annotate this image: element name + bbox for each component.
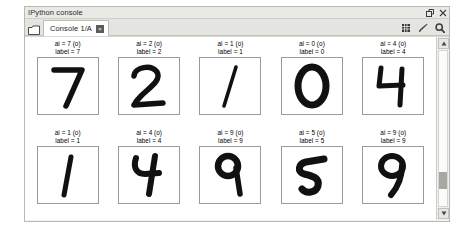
window-title: IPython console bbox=[28, 7, 83, 19]
digit-cell[interactable]: ai = 1 (o) label = 1 bbox=[29, 129, 107, 204]
options-icon[interactable] bbox=[400, 22, 411, 33]
digit-cell[interactable]: ai = 4 (o) label = 4 bbox=[354, 40, 432, 115]
scrollbar-thumb[interactable] bbox=[439, 172, 447, 189]
digit-image-0 bbox=[281, 57, 343, 115]
tab-close-icon[interactable]: × bbox=[96, 25, 104, 33]
screen: IPython console bbox=[0, 0, 462, 236]
scrollbar-track[interactable] bbox=[438, 50, 448, 207]
cell-label-line: label = 9 bbox=[218, 137, 243, 145]
cell-ai-line: ai = 5 (o) bbox=[299, 129, 325, 137]
cell-ai-line: ai = 1 (o) bbox=[55, 129, 81, 137]
tab-label: Console 1/A bbox=[50, 24, 92, 33]
digit-cell[interactable]: ai = 9 (o) label = 9 bbox=[354, 129, 432, 204]
cell-label-line: label = 1 bbox=[55, 137, 80, 145]
cell-ai-line: ai = 9 (o) bbox=[218, 129, 244, 137]
digit-image-2 bbox=[118, 57, 180, 115]
toolbar-icon-group bbox=[400, 22, 445, 33]
digit-cell[interactable]: ai = 5 (o) label = 5 bbox=[273, 129, 351, 204]
cell-label-line: label = 9 bbox=[381, 137, 406, 145]
cell-ai-line: ai = 0 (o) bbox=[299, 40, 325, 48]
cell-ai-line: ai = 2 (o) bbox=[136, 40, 162, 48]
figure-row-1: ai = 7 (o) label = 7 ai = 2 (o) label = … bbox=[27, 40, 434, 129]
cell-label-line: label = 2 bbox=[137, 48, 162, 56]
digit-image-1b bbox=[37, 146, 99, 204]
digit-cell[interactable]: ai = 9 (o) label = 9 bbox=[191, 129, 269, 204]
cell-ai-line: ai = 4 (o) bbox=[136, 129, 162, 137]
digit-image-1 bbox=[199, 57, 261, 115]
cell-ai-line: ai = 9 (o) bbox=[380, 129, 406, 137]
vertical-scrollbar[interactable] bbox=[436, 37, 449, 220]
close-button[interactable] bbox=[438, 8, 447, 17]
digit-image-7 bbox=[37, 57, 99, 115]
tab-console-1a[interactable]: Console 1/A × bbox=[43, 20, 109, 36]
magnifier-icon[interactable] bbox=[434, 22, 445, 33]
digit-cell[interactable]: ai = 2 (o) label = 2 bbox=[110, 40, 188, 115]
cell-label-line: label = 0 bbox=[299, 48, 324, 56]
cell-ai-line: ai = 7 (o) bbox=[55, 40, 81, 48]
console-tabstrip: Console 1/A × bbox=[25, 19, 449, 36]
digit-cell[interactable]: ai = 1 (o) label = 1 bbox=[191, 40, 269, 115]
digit-cell[interactable]: ai = 4 (o) label = 4 bbox=[110, 129, 188, 204]
scroll-up-arrow-icon[interactable] bbox=[438, 38, 449, 49]
window-titlebar: IPython console bbox=[25, 7, 449, 19]
folder-browse-icon[interactable] bbox=[28, 22, 40, 33]
ipython-console-window: IPython console bbox=[24, 6, 450, 222]
digit-cell[interactable]: ai = 7 (o) label = 7 bbox=[29, 40, 107, 115]
cell-ai-line: ai = 4 (o) bbox=[380, 40, 406, 48]
cell-label-line: label = 7 bbox=[55, 48, 80, 56]
cell-label-line: label = 4 bbox=[137, 137, 162, 145]
scroll-down-arrow-icon[interactable] bbox=[438, 208, 449, 219]
console-output-area: ai = 7 (o) label = 7 ai = 2 (o) label = … bbox=[25, 36, 449, 220]
mnist-prediction-figure: ai = 7 (o) label = 7 ai = 2 (o) label = … bbox=[25, 37, 436, 220]
digit-image-4 bbox=[362, 57, 424, 115]
digit-cell[interactable]: ai = 0 (o) label = 0 bbox=[273, 40, 351, 115]
cell-ai-line: ai = 1 (o) bbox=[218, 40, 244, 48]
undock-button[interactable] bbox=[425, 8, 434, 17]
brush-icon[interactable] bbox=[417, 22, 428, 33]
cell-label-line: label = 5 bbox=[299, 137, 324, 145]
digit-image-9 bbox=[199, 146, 261, 204]
cell-label-line: label = 1 bbox=[218, 48, 243, 56]
digit-image-4b bbox=[118, 146, 180, 204]
digit-image-5 bbox=[281, 146, 343, 204]
cell-label-line: label = 4 bbox=[381, 48, 406, 56]
figure-row-2: ai = 1 (o) label = 1 ai = 4 (o) label = … bbox=[27, 129, 434, 218]
titlebar-button-group bbox=[425, 8, 447, 17]
digit-image-9b bbox=[362, 146, 424, 204]
